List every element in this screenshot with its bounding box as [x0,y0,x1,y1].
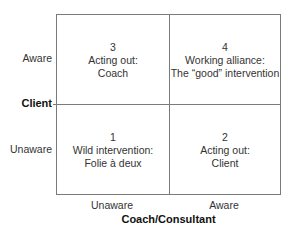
quadrant-title: Wild intervention: [73,144,154,157]
quadrant-number: 3 [110,41,116,54]
quadrant-number: 2 [222,131,228,144]
quadrant-4: 4 Working alliance: The “good” intervent… [169,15,281,105]
quadrant-subtitle: Coach [98,67,128,80]
quadrant-title: Working alliance: [185,54,265,67]
x-axis-title: Coach/Consultant [56,213,281,225]
quadrant-3: 3 Acting out: Coach [57,15,169,105]
quadrant-grid: 3 Acting out: Coach 4 Working alliance: … [56,14,281,195]
quadrant-2: 2 Acting out: Client [169,105,281,195]
quadrant-subtitle: Folie à deux [84,157,141,170]
x-label-aware: Aware [168,199,280,211]
y-axis-title: Client [0,97,52,109]
quadrant-1: 1 Wild intervention: Folie à deux [57,105,169,195]
quadrant-title: Acting out: [88,54,138,67]
quadrant-subtitle: Client [212,157,239,170]
quadrant-title: Acting out: [200,144,250,157]
quadrant-subtitle: The “good” intervention [171,67,280,80]
y-label-unaware: Unaware [0,143,52,155]
x-label-unaware: Unaware [56,199,168,211]
quadrant-number: 1 [110,131,116,144]
y-label-aware: Aware [0,52,52,64]
quadrant-number: 4 [222,41,228,54]
